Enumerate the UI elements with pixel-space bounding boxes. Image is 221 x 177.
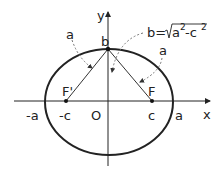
left-focus-label: F': [62, 84, 73, 99]
b-formula-a: a: [172, 25, 180, 40]
right-focus-coord-label: c: [148, 108, 155, 123]
left-segment-label: a: [66, 27, 74, 42]
right-segment-label: a: [159, 43, 167, 58]
b-formula-prefix: b=: [147, 25, 166, 40]
right-vertex-label: a: [175, 108, 183, 123]
left-focus-coord-label: -c: [59, 108, 71, 123]
segment-right-focus-to-b: [108, 49, 152, 101]
ellipse-diagram: y x O b F' F -a -c c a a a b= a 2 -c 2: [0, 0, 221, 177]
origin-label: O: [91, 108, 101, 123]
b-formula-minus-c: -c: [185, 25, 197, 40]
left-vertex-label: -a: [26, 108, 39, 123]
right-focus-point: [150, 99, 154, 103]
b-formula: b= a 2 -c 2: [147, 22, 207, 40]
left-focus-point: [64, 99, 68, 103]
ellipse: [45, 49, 173, 155]
b-formula-leader: [112, 33, 143, 72]
x-axis-label: x: [203, 107, 211, 122]
co-vertex-label: b: [101, 34, 109, 49]
b-formula-exp2: 2: [201, 22, 207, 32]
right-focus-label: F: [148, 84, 155, 99]
y-axis-label: y: [97, 8, 105, 23]
